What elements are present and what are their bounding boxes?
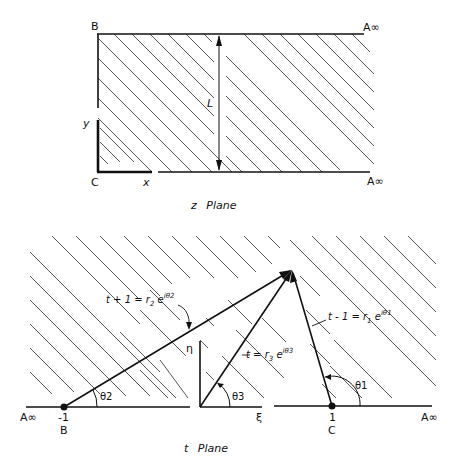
equation-t-plus-1: t + 1 = r2 eiθ2 [106,292,175,308]
label-theta1: θ1 [355,380,367,391]
label-B-t: B [60,424,68,437]
eq1-leader [312,320,326,326]
label-B-value: -1 [58,411,69,424]
equation-t: t = r3 eiθ3 [246,347,293,363]
label-theta2: θ2 [100,391,112,402]
label-A-inf-right: A∞ [421,411,438,424]
label-C-value: 1 [329,411,336,424]
label-B-z: B [91,20,99,33]
z-plane: B A∞ L y C x A∞ z Plane [82,20,384,212]
t-plane: t + 1 = r2 eiθ2 t = r3 eiθ3 t - 1 = r1 e… [20,236,438,455]
vector-t [200,270,292,407]
label-xi: ξ [256,411,262,424]
z-plane-caption: z Plane [190,199,237,212]
z-plane-hatching [98,34,374,172]
theta2-arc [93,390,97,407]
vector-t-plus-1 [64,270,292,407]
conformal-map-diagram: B A∞ L y C x A∞ z Plane [0,0,458,468]
vector-t-minus-1 [290,270,332,406]
label-A-inf-bottom: A∞ [367,175,384,188]
label-eta: η [186,342,193,355]
label-theta3: θ3 [232,391,244,402]
label-A-inf-left: A∞ [20,411,37,424]
equation-t-minus-1: t - 1 = r1 eiθ1 [328,309,392,325]
label-C-z: C [91,176,99,189]
label-C-t: C [328,424,336,437]
label-x: x [142,176,150,189]
label-L: L [207,97,213,110]
t-plane-caption: t Plane [184,442,228,455]
width-dimension-arrow [216,35,222,171]
label-y: y [82,117,90,130]
label-A-inf-top: A∞ [363,21,380,34]
